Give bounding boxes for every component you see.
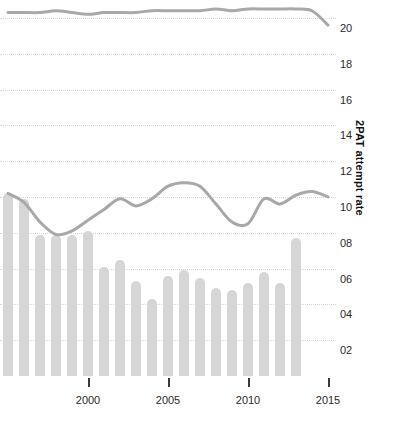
- x-tick-mark: [88, 378, 90, 387]
- y-tick-label: 16: [340, 94, 352, 106]
- y-axis-title: 2PAT attempt rate: [354, 120, 366, 250]
- x-axis: 2000200520102015: [0, 376, 406, 432]
- x-tick-label: 2000: [76, 394, 100, 407]
- x-tick-label: 2005: [156, 394, 180, 407]
- y-tick-label: 06: [340, 273, 352, 285]
- x-tick-mark: [168, 378, 170, 387]
- chart-container: 02040608101214161820 2PAT attempt rate 2…: [0, 0, 406, 432]
- x-tick-mark: [328, 378, 330, 387]
- y-tick-label: 02: [340, 344, 352, 356]
- y-tick-label: 08: [340, 237, 352, 249]
- y-tick-label: 04: [340, 308, 352, 320]
- lower-line-path: [8, 183, 328, 235]
- x-tick-label: 2015: [316, 394, 340, 407]
- plot-area: [0, 0, 336, 376]
- y-tick-label: 20: [340, 22, 352, 34]
- upper-line-path: [8, 9, 328, 25]
- x-tick-mark: [248, 378, 250, 387]
- y-tick-label: 10: [340, 201, 352, 213]
- line-series-svg: [0, 0, 336, 376]
- y-tick-label: 18: [340, 58, 352, 70]
- line-series-layer: [0, 0, 336, 376]
- y-tick-label: 14: [340, 129, 352, 141]
- x-tick-label: 2010: [236, 394, 260, 407]
- y-tick-label: 12: [340, 165, 352, 177]
